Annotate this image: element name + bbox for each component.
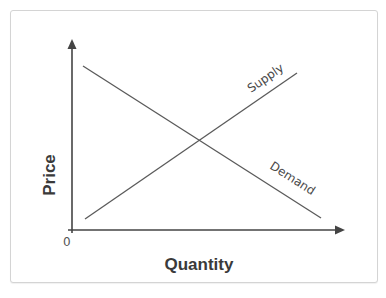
y-axis-title: Price (40, 154, 59, 196)
supply-curve (85, 73, 297, 219)
y-axis (68, 39, 77, 233)
origin-label: 0 (63, 235, 71, 249)
x-axis-title: Quantity (165, 255, 234, 274)
x-axis-arrow-icon (335, 226, 345, 235)
demand-label: Demand (267, 159, 317, 198)
x-axis (68, 226, 345, 235)
supply-demand-diagram: Supply Demand Price 0 Quantity (0, 0, 386, 298)
supply-label: Supply (245, 61, 287, 96)
y-axis-arrow-icon (68, 39, 77, 49)
